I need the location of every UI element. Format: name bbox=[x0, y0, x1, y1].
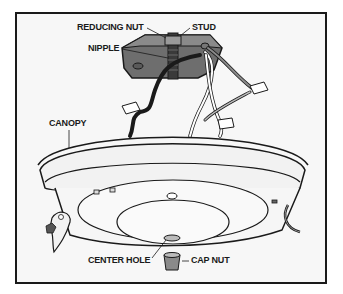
fixture-illustration bbox=[0, 0, 343, 294]
cap-nut bbox=[164, 253, 180, 271]
label-nipple: NIPPLE bbox=[88, 43, 119, 53]
label-center-hole: CENTER HOLE bbox=[88, 255, 150, 265]
canopy bbox=[38, 137, 308, 252]
label-cap-nut: CAP NUT bbox=[191, 255, 229, 265]
label-stud: STUD bbox=[192, 22, 216, 32]
label-reducing-nut: REDUCING NUT bbox=[77, 22, 144, 32]
label-canopy: CANOPY bbox=[49, 118, 86, 128]
